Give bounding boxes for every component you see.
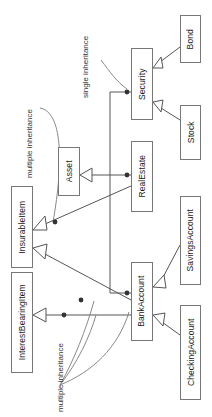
junction-dot-realestate: [125, 173, 130, 178]
generalization-arrow-interestbearing: [33, 308, 46, 322]
class-box-bankaccount[interactable]: BankAccount: [131, 262, 153, 341]
edge-bond-security: [160, 47, 180, 62]
class-box-checkingaccount[interactable]: CheckingAccount: [180, 305, 201, 400]
annotation-multiple-inheritance-lower: multiple inheritance: [57, 343, 65, 412]
class-box-stock[interactable]: Stock: [180, 105, 201, 160]
generalization-arrow-security-from-bond: [153, 57, 163, 68]
class-box-realestate[interactable]: RealEstate: [131, 141, 153, 212]
class-label-stock: Stock: [186, 122, 195, 144]
class-box-asset[interactable]: Asset: [58, 147, 80, 196]
class-label-asset: Asset: [65, 161, 74, 183]
class-label-bankaccount: BankAccount: [138, 276, 147, 327]
generalization-arrow-bankaccount-from-checking: [153, 313, 165, 326]
edge-checkingaccount-bankaccount: [162, 322, 180, 335]
annotation-single-inheritance: single inheritance: [82, 36, 90, 98]
leader-multiple-inheritance-lower-c: [60, 312, 129, 385]
class-label-checkingaccount: CheckingAccount: [186, 319, 195, 387]
class-box-interestbearingitem[interactable]: InterestBearingItem: [11, 272, 33, 373]
edge-bankaccount-insurableitem: [45, 254, 131, 300]
leader-multiple-inheritance-upper: [40, 108, 60, 222]
generalization-arrow-insurableitem-from-bankaccount: [33, 244, 47, 259]
class-label-insurableitem: InsurableItem: [18, 201, 27, 254]
generalization-arrow-insurableitem-from-realestate: [33, 216, 47, 230]
class-label-realestate: RealEstate: [138, 155, 147, 198]
generalization-arrow-security-from-stock: [153, 100, 163, 112]
class-box-security[interactable]: Security: [131, 48, 153, 120]
class-label-bond: Bond: [186, 29, 195, 49]
generalization-arrow-bankaccount-from-savings: [153, 275, 166, 288]
leader-single-inheritance: [101, 60, 127, 89]
class-box-savingsaccount[interactable]: SavingsAccount: [180, 196, 201, 285]
junction-dot-interest: [62, 313, 67, 318]
annotation-multiple-inheritance-upper: multiple inheritance: [26, 109, 34, 178]
class-label-savingsaccount: SavingsAccount: [186, 209, 195, 271]
junction-dot-bankaccount: [125, 291, 130, 296]
junction-dot-insurable-top: [53, 220, 58, 225]
junction-dot-insurable-low: [79, 298, 84, 303]
class-diagram-canvas: Bond Security Stock Asset RealEstate Ins…: [0, 0, 212, 417]
edge-stock-security: [161, 108, 180, 120]
class-box-insurableitem[interactable]: InsurableItem: [11, 186, 33, 268]
class-label-interestbearingitem: InterestBearingItem: [18, 284, 27, 360]
class-label-security: Security: [138, 68, 147, 100]
junction-dot-security: [125, 90, 130, 95]
generalization-arrow-asset: [80, 168, 92, 182]
class-box-bond[interactable]: Bond: [180, 15, 201, 63]
